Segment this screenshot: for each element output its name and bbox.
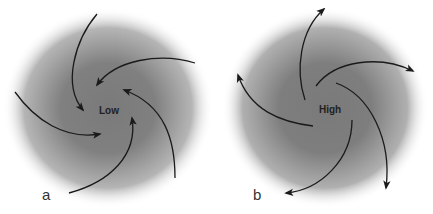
panel-low-pressure: Low a [3, 8, 213, 208]
panel-high-pressure: High b [222, 8, 428, 208]
panel-label-b: b [253, 186, 261, 203]
center-label-low: Low [99, 105, 119, 116]
center-label-high: High [319, 104, 341, 115]
pressure-system-diagram: Low a High b [0, 0, 433, 214]
panel-label-a: a [42, 186, 51, 203]
